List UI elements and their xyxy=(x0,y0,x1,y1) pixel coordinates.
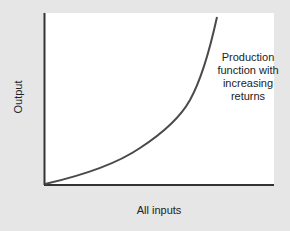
x-axis-label: All inputs xyxy=(137,204,182,216)
production-curve xyxy=(45,17,217,184)
annotation-line-3: increasing xyxy=(217,77,278,90)
chart-graphics xyxy=(0,0,290,231)
annotation-line-4: returns xyxy=(217,90,278,103)
annotation-line-1: Production xyxy=(217,51,278,64)
curve-annotation: Production function with increasing retu… xyxy=(217,51,278,103)
annotation-line-2: function with xyxy=(217,64,278,77)
y-axis-label: Output xyxy=(12,80,24,113)
production-function-chart: Output All inputs Production function wi… xyxy=(0,0,290,231)
